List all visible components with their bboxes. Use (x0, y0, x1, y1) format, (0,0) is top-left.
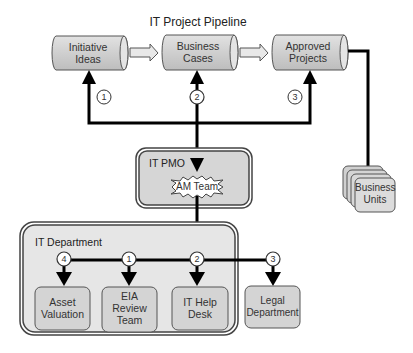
pipeline-label-approved-projects: Approved Projects (272, 40, 344, 64)
arrowhead-up-icon (303, 70, 317, 84)
arrowhead-down-icon (265, 272, 281, 286)
it-pmo-label: IT PMO (149, 157, 185, 169)
step-number: 1 (122, 253, 136, 265)
step-number: 3 (266, 253, 280, 265)
eia-review-team-label: EIA Review Team (102, 290, 157, 326)
step-number: 4 (57, 253, 71, 265)
arrowhead-up-icon (190, 70, 204, 84)
step-number: 2 (190, 253, 204, 265)
step-number: 2 (190, 91, 204, 103)
business-units-connector (348, 51, 368, 172)
it-department-label: IT Department (35, 236, 102, 248)
arrowhead-up-icon (82, 70, 96, 84)
diagram-title: IT Project Pipeline (148, 15, 248, 29)
pipeline-label-initiative-ideas: Initiative Ideas (52, 41, 124, 65)
hollow-arrow-icon (240, 44, 268, 61)
asset-valuation-label: Asset Valuation (35, 296, 90, 320)
hollow-arrow-icon (130, 44, 158, 61)
am-team-label: AM Team (172, 181, 222, 193)
legal-department-label: Legal Department (245, 295, 300, 319)
step-number: 3 (288, 91, 302, 103)
it-help-desk-label: IT Help Desk (172, 296, 228, 320)
step-number: 1 (97, 91, 111, 103)
business-units-label: Business Units (355, 182, 395, 206)
pipeline-label-business-cases: Business Cases (162, 40, 234, 64)
